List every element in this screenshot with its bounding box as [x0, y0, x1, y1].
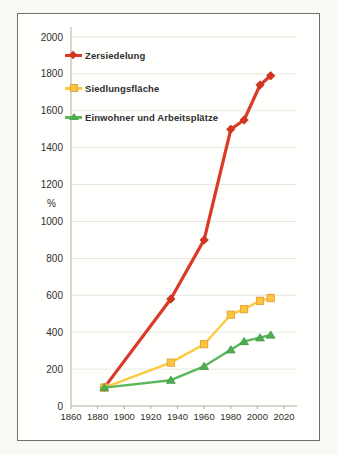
- legend-label-zersiedelung: Zersiedelung: [85, 50, 145, 61]
- line-chart: 0200400600800100012001400160018002000%18…: [18, 14, 319, 440]
- red-diamond-marker-icon: [65, 48, 82, 62]
- legend-label-siedlungsflaeche: Siedlungsfläche: [85, 83, 159, 94]
- data-point-square: [267, 294, 274, 301]
- data-point-square: [167, 359, 174, 366]
- legend-item-siedlungsflaeche: Siedlungsfläche: [65, 81, 159, 95]
- data-point-square: [256, 297, 263, 304]
- green-triangle-marker-icon: [65, 110, 82, 124]
- y-tick-label: 800: [46, 253, 63, 264]
- y-tick-label: 2000: [41, 32, 64, 43]
- legend-item-einwohner: Einwohner und Arbeitsplätze: [65, 110, 218, 124]
- x-tick-label: 1940: [167, 411, 188, 422]
- data-point-square: [240, 306, 247, 313]
- x-tick-label: 1960: [194, 411, 215, 422]
- y-tick-label: 400: [46, 327, 63, 338]
- y-tick-label: 1000: [41, 216, 64, 227]
- y-tick-label: 600: [46, 290, 63, 301]
- y-tick-label: 1600: [41, 105, 64, 116]
- y-tick-label: 1400: [41, 142, 64, 153]
- data-point-square: [227, 311, 234, 318]
- y-axis-unit-label: %: [47, 198, 56, 209]
- legend-item-zersiedelung: Zersiedelung: [65, 48, 145, 62]
- y-tick-label: 1800: [41, 68, 64, 79]
- chart-frame: 0200400600800100012001400160018002000%18…: [17, 13, 320, 441]
- legend-label-einwohner: Einwohner und Arbeitsplätze: [85, 112, 218, 123]
- y-tick-label: 0: [57, 401, 63, 412]
- x-tick-label: 1920: [140, 411, 161, 422]
- x-tick-label: 1880: [87, 411, 108, 422]
- y-tick-label: 1200: [41, 179, 64, 190]
- y-tick-label: 200: [46, 364, 63, 375]
- x-tick-label: 1900: [114, 411, 135, 422]
- x-tick-label: 2020: [273, 411, 294, 422]
- x-tick-label: 1980: [220, 411, 241, 422]
- x-tick-label: 2000: [247, 411, 268, 422]
- x-tick-label: 1860: [60, 411, 81, 422]
- data-point-square: [201, 341, 208, 348]
- yellow-square-marker-icon: [65, 81, 82, 95]
